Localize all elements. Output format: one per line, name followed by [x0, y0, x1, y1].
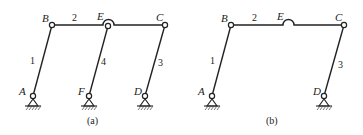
label-F: F [77, 85, 85, 97]
label-link-2: 2 [252, 12, 257, 23]
label-link-2: 2 [72, 12, 77, 23]
joint-E [105, 23, 110, 28]
label-C: C [156, 11, 164, 23]
ground-support-A [25, 99, 41, 110]
label-B: B [42, 12, 49, 24]
caption-b: (b) [266, 115, 278, 127]
label-C: C [335, 11, 343, 23]
panel-a: B E C A F D 2 1 4 3 (a) [18, 10, 168, 127]
joint-D [142, 93, 147, 98]
joint-D [321, 93, 326, 98]
link-1 [33, 25, 52, 96]
joint-F [86, 93, 91, 98]
caption-a: (a) [87, 115, 98, 127]
label-link-1: 1 [30, 55, 35, 66]
label-link-3: 3 [338, 59, 343, 70]
link-2 [231, 20, 344, 26]
linkage-figure: B E C A F D 2 1 4 3 (a) B E C A D 2 1 3 … [0, 0, 363, 135]
joint-A [30, 93, 35, 98]
ground-support-D [316, 99, 332, 110]
label-A: A [197, 85, 205, 97]
joint-B [49, 22, 54, 27]
label-E: E [96, 10, 104, 22]
panel-b: B E C A D 2 1 3 (b) [197, 10, 347, 127]
label-link-4: 4 [101, 56, 106, 67]
label-link-3: 3 [158, 57, 163, 68]
ground-support-F [81, 99, 97, 110]
label-B: B [221, 12, 228, 24]
label-E: E [276, 10, 284, 22]
ground-support-A [204, 99, 220, 110]
label-D: D [312, 85, 321, 97]
joint-C [341, 22, 346, 27]
joint-C [162, 22, 167, 27]
label-D: D [133, 85, 142, 97]
ground-support-D [137, 99, 153, 110]
label-link-1: 1 [210, 55, 215, 66]
label-A: A [18, 85, 26, 97]
joint-B [228, 22, 233, 27]
joint-A [209, 93, 214, 98]
